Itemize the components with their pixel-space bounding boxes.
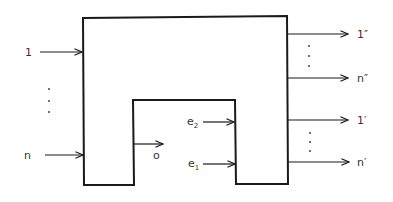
output-label-1pp: 1″	[357, 28, 368, 41]
inner-input-label-e2: e2	[187, 115, 198, 130]
input-label-n: n	[24, 149, 31, 162]
output-ellipsis-upper	[308, 45, 310, 67]
output-label-np: n′	[357, 156, 367, 169]
block-outline	[83, 16, 288, 185]
inner-input-label-e1: e1	[188, 157, 199, 172]
output-label-npp: n″	[357, 72, 368, 85]
input-label-1: 1	[25, 46, 32, 59]
output-ellipsis-lower	[309, 132, 311, 152]
inner-output-label: o	[153, 149, 160, 162]
output-label-1p: 1′	[357, 114, 367, 127]
diagram-canvas: 1 n o e2 e1 1″ n″ 1′ n′	[0, 0, 393, 202]
diagram-svg: 1 n o e2 e1 1″ n″ 1′ n′	[0, 0, 393, 202]
input-ellipsis	[48, 88, 50, 113]
